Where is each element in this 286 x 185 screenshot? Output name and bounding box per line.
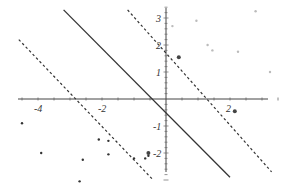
support-vector [233,109,237,113]
data-point [98,138,100,140]
data-point [195,20,197,22]
data-point [21,122,23,124]
x-tick-label: -2 [98,103,106,114]
data-point [206,44,208,46]
y-tick-label: 1 [156,67,161,78]
data-point [107,140,109,142]
x-tick-label: 2 [226,103,231,114]
data-point [82,159,84,161]
svm-plot: -4-22321-1-2 [0,0,286,185]
data-points [21,10,271,183]
data-point [237,51,239,53]
data-point [40,152,42,154]
y-tick-label: -2 [153,148,161,159]
data-point [254,10,256,12]
data-point [107,153,109,155]
data-point [144,157,146,159]
y-tick-label: -1 [153,121,161,132]
support-vector [177,55,181,59]
data-point [171,25,173,27]
support-vector [146,151,150,155]
data-point [269,71,271,73]
data-point [211,49,213,51]
data-point [78,180,80,182]
tick-labels: -4-22321-1-2 [34,13,231,159]
y-tick-label: 2 [156,40,161,51]
boundary-lines [19,10,272,180]
data-point [133,157,135,159]
x-tick-label: -4 [34,103,42,114]
y-tick-label: 3 [155,13,161,24]
